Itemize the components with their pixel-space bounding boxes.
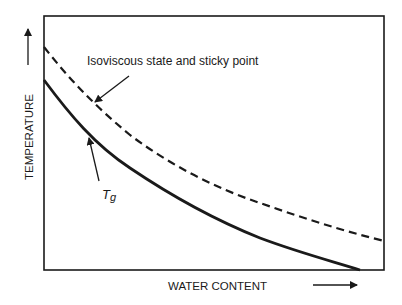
isoviscous-curve bbox=[44, 47, 384, 241]
tg-curve bbox=[44, 80, 360, 270]
tg-pointer-arrow bbox=[89, 138, 99, 181]
tg-label: Tg bbox=[102, 187, 117, 203]
diagram-canvas: Isoviscous state and sticky point Tg WAT… bbox=[0, 0, 402, 305]
x-axis-label: WATER CONTENT bbox=[168, 280, 267, 292]
isoviscous-pointer-arrow bbox=[95, 76, 129, 102]
isoviscous-label: Isoviscous state and sticky point bbox=[87, 54, 259, 68]
tg-label-sub: g bbox=[110, 191, 117, 203]
y-axis-label: TEMPERATURE bbox=[23, 94, 35, 180]
